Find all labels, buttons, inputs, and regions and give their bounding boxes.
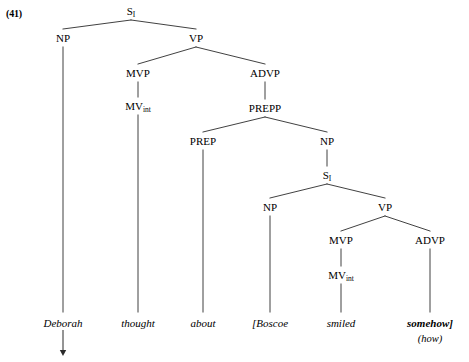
tree-branch	[265, 117, 327, 132]
node-label: MVP	[329, 234, 353, 246]
tree-node-vp-matrix: VP	[189, 33, 203, 44]
terminal-t-thought: thought	[121, 318, 155, 329]
node-label: NP	[320, 135, 334, 147]
tree-node-mvp-embed: MVP	[329, 235, 353, 246]
node-subscript: int	[143, 105, 151, 114]
tree-node-s-embed: SI	[323, 170, 332, 181]
tree-node-prepp: PREPP	[249, 103, 281, 114]
tree-branch	[196, 47, 265, 64]
node-label: PREP	[190, 135, 216, 147]
tree-branch	[131, 20, 196, 29]
node-subscript: int	[346, 274, 354, 283]
tree-node-np-matrix: NP	[56, 33, 70, 44]
tree-node-prep: PREP	[190, 136, 216, 147]
tree-node-np-embed: NP	[263, 202, 277, 213]
tree-node-mvint-matrix: MVint	[125, 101, 151, 112]
node-subscript: I	[133, 10, 136, 19]
tree-branch	[203, 117, 265, 132]
tree-node-advp-matrix: ADVP	[250, 68, 280, 79]
tree-branch	[327, 184, 385, 198]
tree-node-vp-embed: VP	[378, 202, 392, 213]
tree-node-np-embed-top: NP	[320, 136, 334, 147]
terminal-t-somehow: somehow]	[407, 318, 453, 329]
tree-branch	[63, 20, 131, 29]
tree-node-mvint-embed: MVint	[328, 270, 354, 281]
node-label: MV	[328, 269, 346, 281]
terminal-t-smiled: smiled	[327, 318, 356, 329]
tree-branches	[0, 0, 469, 362]
tree-node-s-root: SI	[127, 6, 136, 17]
tree-branch	[270, 184, 327, 198]
node-label: ADVP	[250, 67, 280, 79]
node-label: NP	[263, 201, 277, 213]
node-label: VP	[189, 32, 203, 44]
tree-branch	[138, 47, 196, 64]
terminal-t-about: about	[190, 318, 215, 329]
terminal-t-deborah: Deborah	[43, 318, 82, 329]
node-label: ADVP	[415, 234, 445, 246]
node-label: VP	[378, 201, 392, 213]
movement-arrow-head	[60, 350, 66, 356]
tree-branch	[341, 216, 385, 231]
node-subscript: I	[329, 174, 332, 183]
node-label: MVP	[126, 67, 150, 79]
node-label: NP	[56, 32, 70, 44]
syntax-tree-figure: (41) SINPVPMVPADVPMVintPREPPPREPNPSINPVP…	[0, 0, 469, 362]
tree-node-mvp-matrix: MVP	[126, 68, 150, 79]
tree-node-advp-embed: ADVP	[415, 235, 445, 246]
terminal-gloss: (how)	[418, 334, 443, 345]
node-label: PREPP	[249, 102, 281, 114]
tree-branch	[385, 216, 430, 231]
terminal-t-boscoe: [Boscoe	[252, 318, 288, 329]
node-label: MV	[125, 100, 143, 112]
